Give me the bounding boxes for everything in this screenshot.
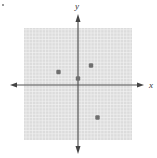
- arrow-up-icon: [76, 14, 81, 22]
- coordinate-plane: x y: [0, 0, 157, 158]
- y-axis-label: y: [74, 1, 79, 11]
- arrow-right-icon: [137, 83, 144, 88]
- x-axis-label: x: [148, 80, 153, 90]
- data-point: [89, 63, 93, 67]
- arrow-left-icon: [10, 83, 17, 88]
- data-point: [95, 115, 99, 119]
- data-point: [76, 76, 80, 80]
- data-point: [56, 70, 60, 74]
- arrow-down-icon: [76, 146, 81, 154]
